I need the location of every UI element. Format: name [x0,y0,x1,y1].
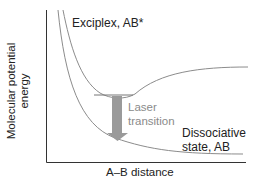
exciplex-label: Exciplex, AB* [72,16,143,30]
y-axis-label-line1: Molecular potential [5,26,18,156]
x-axis-label: A–B distance [106,166,174,178]
dissociative-label: Dissociative state, AB [182,126,246,154]
laser-transition-arrow [107,96,128,141]
y-axis-label-line2: energy [18,26,31,156]
dissociative-label-line1: Dissociative [182,126,246,140]
laser-transition-label: Laser transition [128,100,175,128]
laser-label-line1: Laser [128,100,175,114]
y-axis-label: Molecular potential energy [5,26,31,156]
dissociative-label-line2: state, AB [182,140,246,154]
laser-label-line2: transition [128,114,175,128]
